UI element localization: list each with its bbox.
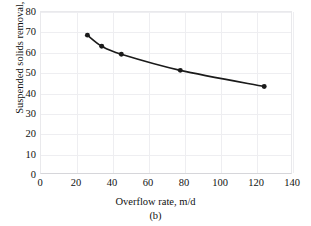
y-axis-title: Suspended solids removal, % (14, 0, 26, 142)
x-tick-label-100: 100 (200, 177, 240, 188)
data-point-2 (119, 52, 124, 57)
x-tick-label-0: 0 (20, 177, 60, 188)
x-tick-label-80: 80 (164, 177, 204, 188)
data-point-0 (85, 33, 90, 38)
x-tick-label-20: 20 (56, 177, 96, 188)
figure-chart-b: 01020304050607080 020406080100120140 Ove… (0, 0, 311, 226)
data-point-3 (178, 68, 183, 73)
x-axis-title: Overflow rate, m/d (0, 196, 311, 208)
x-tick-label-120: 120 (236, 177, 276, 188)
figure-caption: (b) (0, 210, 311, 222)
data-point-1 (99, 44, 104, 49)
series-line (87, 35, 264, 86)
data-point-4 (262, 84, 267, 89)
x-axis-tick-labels: 020406080100120140 (40, 177, 292, 191)
x-tick-label-40: 40 (92, 177, 132, 188)
x-tick-label-60: 60 (128, 177, 168, 188)
series-suspended-solids-removal (41, 12, 291, 173)
y-tick-label-10: 10 (0, 148, 36, 159)
series-markers (85, 33, 267, 89)
x-tick-label-140: 140 (272, 177, 311, 188)
gridline-x-140 (293, 12, 294, 173)
plot-area (40, 11, 292, 174)
